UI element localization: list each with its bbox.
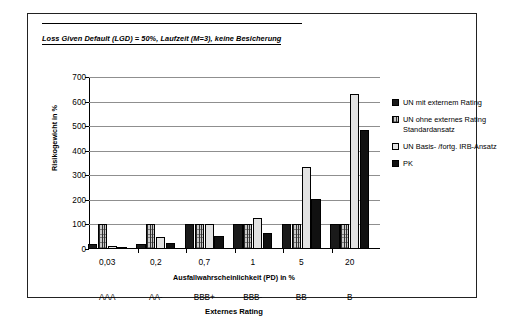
bar [263, 233, 272, 249]
y-axis-title: Risikogewicht in % [50, 105, 59, 171]
bar-group [233, 77, 272, 249]
legend-item: PK [392, 159, 506, 169]
x-axis-title: Ausfallwahrscheinlichkeit (PD) in % [173, 273, 295, 282]
rating-label: BBB+ [194, 293, 215, 302]
legend-swatch-icon [392, 99, 399, 106]
bar [360, 130, 369, 249]
bar [146, 224, 155, 249]
legend-item: UN ohne externes Rating Standardansatz [392, 115, 506, 134]
bar [88, 244, 97, 249]
legend-label: UN Basis- /fortg. IRB-Ansatz [403, 142, 497, 152]
legend-label: UN ohne externes Rating Standardansatz [403, 115, 506, 134]
bar [340, 224, 349, 249]
y-tick-label: 200 [46, 195, 86, 204]
bar [195, 224, 204, 249]
bar [302, 167, 311, 249]
x-tick-label: 1 [250, 257, 255, 267]
figure-frame: Loss Given Default (LGD) = 50%, Laufzeit… [27, 13, 477, 298]
bar-series-container [89, 77, 380, 249]
x-tick-label: 20 [345, 257, 354, 267]
y-tick-label: 500 [46, 122, 86, 131]
legend-item: UN mit externem Rating [392, 98, 506, 108]
y-tick-label: 0 [46, 245, 86, 254]
legend-item: UN Basis- /fortg. IRB-Ansatz [392, 142, 506, 152]
bar-group [282, 77, 321, 249]
rating-label: BBB- [243, 293, 262, 302]
rating-label: B [347, 293, 352, 302]
bar-group [330, 77, 369, 249]
legend-swatch-icon [392, 116, 399, 123]
rating-label: AAA [99, 293, 115, 302]
bar-group [185, 77, 224, 249]
x-tick-label: 0,7 [198, 257, 210, 267]
bar [233, 224, 242, 249]
bar [253, 218, 262, 249]
plot-area: 0100200300400500600700 0,030,20,71520 Au… [89, 77, 380, 249]
bar [108, 246, 117, 249]
x-tick [186, 249, 187, 253]
chart-title: Loss Given Default (LGD) = 50%, Laufzeit… [42, 34, 281, 45]
y-tick-label: 700 [46, 73, 86, 82]
legend-label: UN mit externem Rating [403, 98, 482, 108]
bar-group [136, 77, 175, 249]
legend: UN mit externem RatingUN ohne externes R… [392, 98, 506, 176]
rating-axis-title: Externes Rating [205, 307, 263, 316]
bar [117, 247, 126, 249]
y-tick-label: 100 [46, 220, 86, 229]
x-tick-label: 0,03 [99, 257, 115, 267]
y-tick-label: 600 [46, 97, 86, 106]
bar [243, 224, 252, 249]
y-tick-label: 400 [46, 146, 86, 155]
bar [166, 243, 175, 249]
x-tick [138, 249, 139, 253]
y-tick-label: 300 [46, 171, 86, 180]
legend-swatch-icon [392, 143, 399, 150]
bar [214, 236, 223, 249]
x-tick-label: 5 [299, 257, 304, 267]
x-tick [235, 249, 236, 253]
x-tick [332, 249, 333, 253]
bar-group [88, 77, 127, 249]
chart-title-block: Loss Given Default (LGD) = 50%, Laufzeit… [42, 23, 302, 45]
rating-label: BB [296, 293, 307, 302]
bar [282, 224, 291, 249]
x-tick-label: 0,2 [150, 257, 162, 267]
bar [205, 224, 214, 249]
rating-label: AA- [149, 293, 163, 302]
bar [292, 224, 301, 249]
bar [156, 237, 165, 249]
legend-swatch-icon [392, 160, 399, 167]
bar [98, 224, 107, 249]
legend-label: PK [403, 159, 413, 169]
bar [311, 199, 320, 249]
bar [185, 224, 194, 249]
bar [330, 224, 339, 249]
title-rule [42, 23, 302, 24]
bar [350, 94, 359, 249]
x-tick [283, 249, 284, 253]
